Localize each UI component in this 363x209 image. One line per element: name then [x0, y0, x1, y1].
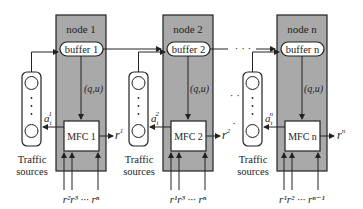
traffic-sources-n-label-line1: Traffic: [239, 154, 268, 165]
node-1-group: node 1 buffer 1 (q,u) MFC 1 r²r³ ··· rⁿ …: [16, 15, 123, 205]
arrival-n-label: atn: [265, 110, 274, 127]
ellipsis-bottom-left: ·: [232, 117, 236, 129]
source-to-buffer-n-arrow: [253, 52, 280, 72]
output-2-label: r2: [222, 127, 231, 142]
multi-node-diagram: node 1 buffer 1 (q,u) MFC 1 r²r³ ··· rⁿ …: [0, 0, 363, 209]
source-to-buffer-2-arrow: [139, 52, 166, 72]
ellipsis-top: · · ·: [235, 42, 252, 54]
traffic-sources-2-label-line2: sources: [123, 166, 155, 177]
source-circle: [132, 77, 145, 90]
traffic-sources-1-label-line2: sources: [16, 166, 48, 177]
mfc-n-label: MFC n: [288, 131, 317, 142]
arrival-1-label: at1: [44, 110, 53, 127]
traffic-sources-n-label-line2: sources: [237, 166, 269, 177]
node-1-title: node 1: [66, 23, 96, 35]
buffer-1-label: buffer 1: [65, 44, 98, 55]
mfc-2-inputs-label: r¹r³ ··· rⁿ: [170, 193, 207, 205]
source-circle: [246, 77, 259, 90]
node-n-group: node n buffer n (q,u) MFC n r¹r² ··· rⁿ⁻…: [237, 15, 345, 205]
node-n-qu-label: (q,u): [304, 83, 324, 95]
source-circle: [132, 125, 145, 138]
source-circle: [246, 125, 259, 138]
diagram-canvas: node 1 buffer 1 (q,u) MFC 1 r²r³ ··· rⁿ …: [0, 0, 363, 209]
mfc-n-inputs-label: r¹r² ··· rⁿ⁻¹: [279, 193, 325, 205]
arrival-2-label: at2: [151, 110, 160, 127]
source-circle: [25, 77, 38, 90]
node-1-qu-label: (q,u): [84, 83, 104, 95]
traffic-sources-1-label-line1: Traffic: [18, 154, 47, 165]
source-circle: [25, 125, 38, 138]
source-to-buffer-1-arrow: [32, 52, 59, 72]
buffer-n-label: buffer n: [286, 44, 320, 55]
node-2-title: node 2: [173, 23, 203, 35]
output-1-label: r1: [115, 127, 123, 142]
output-n-label: rn: [337, 127, 346, 142]
node-2-group: node 2 buffer 2 (q,u) MFC 2 r¹r³ ··· rⁿ …: [123, 15, 230, 205]
mfc-1-label: MFC 1: [67, 131, 96, 142]
node-n-title: node n: [287, 23, 317, 35]
traffic-sources-2-label-line1: Traffic: [125, 154, 154, 165]
buffer-2-label: buffer 2: [172, 44, 205, 55]
mfc-2-label: MFC 2: [174, 131, 203, 142]
node-2-qu-label: (q,u): [190, 83, 210, 95]
mfc-1-inputs-label: r²r³ ··· rⁿ: [63, 193, 100, 205]
